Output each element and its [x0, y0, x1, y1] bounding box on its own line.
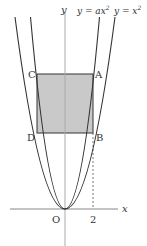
x-axis-label: x — [122, 203, 128, 214]
point-c-label: C — [28, 69, 36, 80]
tick-2-label: 2 — [90, 214, 96, 225]
equation-y-ax2: y = ax2 — [76, 4, 110, 16]
point-d-label: D — [27, 132, 35, 143]
origin-label: O — [52, 214, 60, 225]
parabola-diagram: y x O 2 C A D B y = ax2 y = x2 — [0, 0, 147, 246]
point-a-label: A — [94, 69, 103, 80]
y-axis-label: y — [60, 4, 67, 15]
equation-y-x2: y = x2 — [113, 4, 141, 16]
point-b-label: B — [96, 132, 103, 143]
